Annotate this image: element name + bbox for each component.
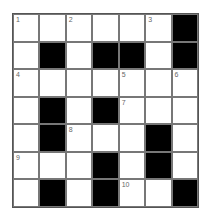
black-cell [39, 179, 65, 207]
black-cell [39, 124, 65, 152]
crossword-cell[interactable] [172, 97, 198, 125]
crossword-cell[interactable]: 8 [66, 124, 92, 152]
black-cell [119, 42, 145, 70]
crossword-cell[interactable] [172, 152, 198, 180]
crossword-cell[interactable] [66, 179, 92, 207]
clue-number: 10 [122, 181, 130, 188]
black-cell [145, 124, 171, 152]
crossword-cell[interactable]: 3 [145, 14, 171, 42]
crossword-cell[interactable] [119, 152, 145, 180]
black-cell [92, 179, 118, 207]
black-cell [172, 42, 198, 70]
crossword-cell[interactable] [66, 42, 92, 70]
clue-number: 4 [16, 71, 20, 78]
crossword-cell[interactable] [145, 69, 171, 97]
crossword-cell[interactable]: 6 [172, 69, 198, 97]
black-cell [172, 14, 198, 42]
crossword-cell[interactable] [66, 97, 92, 125]
crossword-cell[interactable]: 5 [119, 69, 145, 97]
crossword-cell[interactable] [13, 124, 39, 152]
crossword-cell[interactable]: 4 [13, 69, 39, 97]
crossword-cell[interactable] [119, 124, 145, 152]
black-cell [92, 97, 118, 125]
crossword-grid: 12345678910 [12, 13, 199, 208]
crossword-cell[interactable] [66, 152, 92, 180]
black-cell [92, 42, 118, 70]
clue-number: 6 [175, 71, 179, 78]
black-cell [145, 152, 171, 180]
crossword-cell[interactable] [92, 69, 118, 97]
clue-number: 7 [122, 99, 126, 106]
crossword-cell[interactable]: 2 [66, 14, 92, 42]
clue-number: 1 [16, 16, 20, 23]
crossword-cell[interactable] [66, 69, 92, 97]
clue-number: 2 [69, 16, 73, 23]
crossword-cell[interactable] [39, 69, 65, 97]
clue-number: 5 [122, 71, 126, 78]
clue-number: 3 [148, 16, 152, 23]
clue-number: 8 [69, 126, 73, 133]
crossword-cell[interactable] [119, 14, 145, 42]
crossword-cell[interactable] [145, 42, 171, 70]
crossword-cell[interactable] [172, 124, 198, 152]
crossword-cell[interactable] [92, 14, 118, 42]
crossword-cell[interactable] [13, 97, 39, 125]
crossword-cell[interactable]: 7 [119, 97, 145, 125]
clue-number: 9 [16, 154, 20, 161]
crossword-cell[interactable] [13, 179, 39, 207]
crossword-cell[interactable] [39, 152, 65, 180]
crossword-cell[interactable] [13, 42, 39, 70]
black-cell [92, 152, 118, 180]
crossword-cell[interactable]: 1 [13, 14, 39, 42]
black-cell [39, 42, 65, 70]
crossword-cell[interactable]: 10 [119, 179, 145, 207]
crossword-cell[interactable] [145, 179, 171, 207]
black-cell [172, 179, 198, 207]
crossword-cell[interactable]: 9 [13, 152, 39, 180]
crossword-cell[interactable] [92, 124, 118, 152]
black-cell [39, 97, 65, 125]
crossword-cell[interactable] [145, 97, 171, 125]
crossword-cell[interactable] [39, 14, 65, 42]
